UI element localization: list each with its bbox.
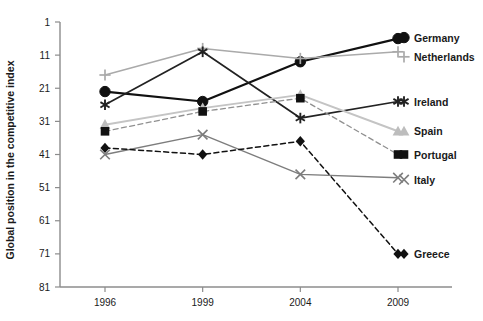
y-axis-title: Global position in the competitive index (4, 60, 16, 259)
legend-label-spain: Spain (414, 125, 443, 137)
data-point-germany-1996 (100, 86, 110, 96)
x-tick-label: 1996 (94, 297, 117, 308)
legend-label-portugal: Portugal (414, 149, 457, 161)
y-tick-label: 31 (39, 116, 51, 127)
y-tick-label: 41 (39, 149, 51, 160)
y-tick-label: 1 (44, 17, 50, 28)
chart-background (0, 0, 483, 321)
x-tick-label: 2009 (387, 297, 410, 308)
data-point-portugal-2004 (296, 94, 305, 103)
y-tick-label: 51 (39, 182, 51, 193)
legend-label-italy: Italy (414, 174, 435, 186)
legend-label-germany: Germany (414, 32, 460, 44)
y-tick-label: 21 (39, 83, 51, 94)
y-tick-label: 61 (39, 215, 51, 226)
x-tick-label: 1999 (192, 297, 215, 308)
y-tick-label: 81 (39, 282, 51, 293)
legend-marker-portugal (400, 150, 409, 159)
data-point-portugal-1999 (198, 107, 207, 116)
legend-marker-germany (399, 32, 409, 42)
line-chart: Global position in the competitive index… (0, 0, 483, 321)
y-tick-label: 11 (40, 50, 51, 61)
chart-container: Global position in the competitive index… (0, 0, 483, 321)
data-point-portugal-1996 (101, 127, 110, 136)
legend-label-netherlands: Netherlands (414, 51, 475, 63)
x-tick-label: 2004 (289, 297, 312, 308)
y-tick-label: 71 (39, 248, 51, 259)
legend-label-ireland: Ireland (414, 96, 448, 108)
legend-label-greece: Greece (414, 248, 450, 260)
